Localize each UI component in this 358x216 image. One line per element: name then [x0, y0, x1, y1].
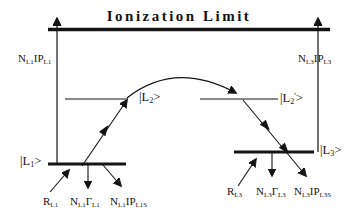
label-part: > — [34, 154, 41, 168]
label-part: N — [70, 195, 78, 207]
label-sub: L1 — [78, 201, 86, 209]
label-sub: L1S — [136, 201, 148, 209]
label-sub: L3S — [320, 191, 332, 199]
label-ket-l2-prime: |L2'> — [280, 90, 303, 108]
label-n-ip-l3: NL3IPL3 — [298, 52, 331, 68]
label-r-l3: RL3 — [227, 185, 242, 201]
label-part: |L — [320, 143, 330, 157]
diagram-canvas — [0, 0, 358, 216]
label-ket-l2: |L2> — [139, 91, 160, 107]
label-sub: L3 — [234, 191, 242, 199]
label-sub: L3 — [302, 191, 310, 199]
label-part: N — [256, 185, 264, 197]
label-sub: L1 — [92, 201, 100, 209]
label-sub: L3 — [264, 191, 272, 199]
label-r-l1: RL1 — [43, 195, 58, 211]
label-part: N — [110, 195, 118, 207]
label-sub: L1 — [118, 201, 126, 209]
label-n-ip-l3s: NL3IPL3S — [294, 185, 331, 201]
label-sub: L1 — [50, 201, 58, 209]
label-part: |L — [280, 91, 290, 105]
energy-level-diagram: Ionization Limit NL1IPL1 NL3IPL3 |L2> |L… — [0, 0, 358, 216]
loss-rate-arrow-l1 — [103, 165, 121, 186]
label-n-gamma-l3: NL3ΓL3 — [256, 185, 286, 201]
label-sub: L3 — [306, 58, 314, 66]
label-ket-l3: |L3> — [320, 144, 341, 160]
label-sub: L1 — [26, 58, 34, 66]
label-sub: L3 — [278, 191, 286, 199]
label-part: N — [298, 52, 306, 64]
diagram-title: Ionization Limit — [0, 8, 358, 25]
label-part: IP — [126, 195, 136, 207]
label-n-ip-l1: NL1IPL1 — [18, 52, 51, 68]
label-part: > — [153, 90, 160, 104]
label-n-gamma-l1: NL1ΓL1 — [70, 195, 100, 211]
label-part: IP — [310, 185, 320, 197]
label-part: N — [18, 52, 26, 64]
label-n-ip-l1s: NL1IPL1S — [110, 195, 147, 211]
label-sub: L1 — [44, 58, 52, 66]
label-part: IP — [34, 52, 44, 64]
label-part: > — [334, 143, 341, 157]
pump-rate-arrow-l3 — [238, 159, 256, 186]
label-part: |L — [139, 90, 149, 104]
label-part: > — [296, 91, 303, 105]
label-part: N — [294, 185, 302, 197]
pump-rate-arrow-l1 — [50, 170, 69, 192]
decay-mid-arrowhead-right — [261, 120, 272, 131]
label-sub: L3 — [324, 58, 332, 66]
label-ket-l1: |L1> — [20, 155, 41, 171]
label-part: IP — [314, 52, 324, 64]
label-part: |L — [20, 154, 30, 168]
